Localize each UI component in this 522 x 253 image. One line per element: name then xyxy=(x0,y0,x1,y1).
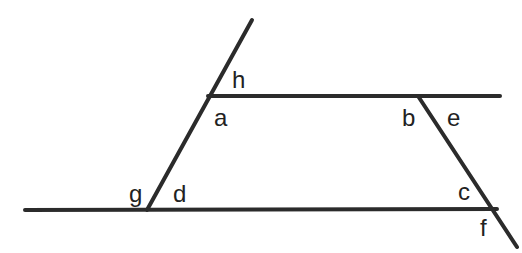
angle-label-h: h xyxy=(232,66,245,93)
angle-label-g: g xyxy=(129,180,142,207)
angle-label-e: e xyxy=(447,104,460,131)
angle-label-a: a xyxy=(214,104,228,131)
left-transversal-line xyxy=(147,20,252,210)
angle-label-c: c xyxy=(458,178,470,205)
right-transversal-line xyxy=(418,96,517,247)
bottom-parallel-line xyxy=(25,209,497,210)
angle-diagram: h a b e g d c f xyxy=(0,0,522,253)
angle-label-f: f xyxy=(480,214,487,241)
angle-label-d: d xyxy=(173,180,186,207)
angle-label-b: b xyxy=(402,104,415,131)
